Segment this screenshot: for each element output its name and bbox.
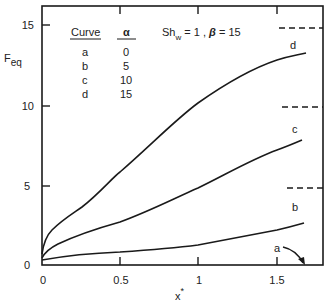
y-axis-title: Feq: [4, 52, 22, 68]
curve-c: [42, 140, 302, 258]
legend: Curve α a 0 b 5 c 10 d 15: [70, 26, 136, 100]
legend-curve-d: d: [82, 88, 88, 100]
curve-label-b: b: [292, 201, 298, 213]
y-tick-label-5: 5: [24, 180, 30, 192]
x-tick-label-0: 0: [40, 274, 46, 286]
y-axis: [42, 25, 50, 186]
arrowhead-icon: [298, 257, 305, 265]
legend-header-alpha: α: [123, 26, 130, 38]
y-tick-label-10: 10: [22, 100, 34, 112]
y-tick-label-0: 0: [24, 259, 30, 271]
x-tick-label-1: 1: [196, 274, 202, 286]
y-tick-label-15: 15: [22, 19, 34, 31]
x-axis-title: x*: [175, 286, 185, 302]
curve-label-c: c: [292, 123, 298, 135]
legend-alpha-c: 10: [120, 74, 132, 86]
x-tick-label-1.5: 1.5: [269, 274, 284, 286]
asymptotes: [279, 28, 323, 188]
chart: 0 5 10 15 0 0.5 1 1.5 Feq x* Curve α a 0…: [0, 0, 330, 304]
legend-alpha-a: 0: [123, 46, 129, 58]
legend-alpha-b: 5: [123, 60, 129, 72]
curve-label-a: a: [274, 242, 281, 254]
legend-header-curve: Curve: [71, 26, 100, 38]
legend-curve-a: a: [82, 46, 89, 58]
curve-label-d: d: [290, 39, 296, 51]
parameter-annotation: Shw = 1 , β = 15: [162, 26, 241, 42]
legend-curve-c: c: [82, 74, 88, 86]
curve-b: [42, 223, 304, 260]
legend-alpha-d: 15: [120, 88, 132, 100]
x-axis: [120, 6, 277, 265]
legend-curve-b: b: [82, 60, 88, 72]
x-tick-label-0.5: 0.5: [113, 274, 128, 286]
plot-frame: [42, 6, 323, 265]
